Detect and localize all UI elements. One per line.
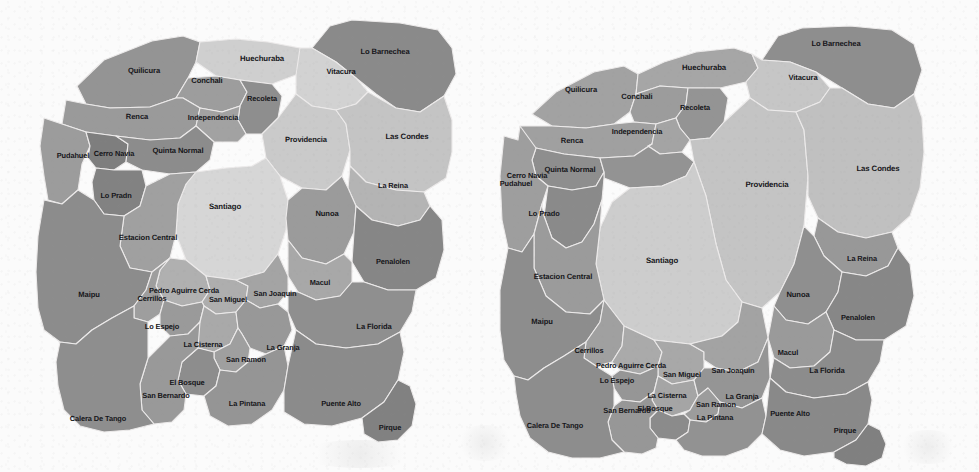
right-map-svg: [490, 0, 979, 472]
left-comuna-shapes: [36, 20, 456, 442]
figure-canvas: Quilicura Huechuraba Conchali Recoleta L…: [0, 0, 979, 472]
comuna-huechuraba[interactable]: [636, 48, 758, 94]
left-choropleth-map: Quilicura Huechuraba Conchali Recoleta L…: [0, 0, 489, 472]
right-choropleth-map: Quilicura Huechuraba Conchali Recoleta L…: [490, 0, 979, 472]
comuna-las-condes[interactable]: [796, 88, 924, 238]
comuna-pudahuel[interactable]: [40, 118, 90, 204]
left-map-svg: [0, 0, 489, 472]
comuna-quilicura[interactable]: [532, 66, 638, 128]
right-comuna-shapes: [500, 26, 924, 466]
